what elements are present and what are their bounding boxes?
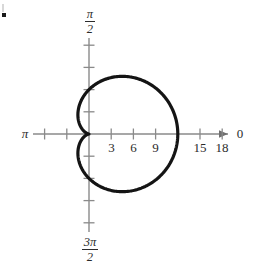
x-tick-label-3: 3 bbox=[105, 141, 118, 154]
x-tick-label-9: 9 bbox=[149, 141, 162, 154]
axis-label-three-pi-over-2: 3π 2 bbox=[75, 236, 105, 264]
x-tick-label-6: 6 bbox=[127, 141, 140, 154]
x-axis-arrow-icon bbox=[219, 130, 228, 138]
polar-plot-canvas bbox=[0, 0, 267, 271]
axis-label-zero: 0 bbox=[233, 127, 247, 140]
polar-cardioid-figure: 3 6 9 15 18 π 0 π 2 3π 2 bbox=[0, 0, 267, 271]
axis-label-pi: π bbox=[18, 127, 32, 140]
three-pi-over-2-denominator: 2 bbox=[82, 250, 99, 264]
three-pi-over-2-numerator: 3π bbox=[82, 236, 99, 250]
x-tick-label-18: 18 bbox=[212, 141, 232, 154]
pi-over-2-denominator: 2 bbox=[85, 22, 95, 36]
axis-label-pi-over-2: π 2 bbox=[79, 8, 101, 36]
pi-over-2-numerator: π bbox=[85, 8, 95, 22]
x-tick-label-15: 15 bbox=[190, 141, 210, 154]
